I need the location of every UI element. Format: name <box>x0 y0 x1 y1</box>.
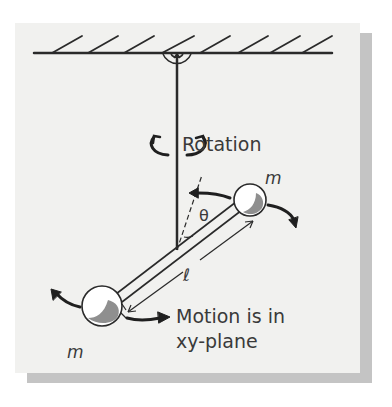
motion-label-line1: Motion is in <box>176 305 285 327</box>
length-label: ℓ <box>183 265 190 285</box>
rotation-label: Rotation <box>182 133 261 155</box>
ceiling <box>34 36 332 53</box>
mass-bottom-label: m <box>67 342 84 362</box>
mass-top-label: m <box>265 168 282 188</box>
rod <box>116 202 242 302</box>
mass-bottom <box>82 286 122 326</box>
mass-top <box>234 184 266 216</box>
motion-label-line2: xy-plane <box>176 330 258 352</box>
angle-label: θ <box>199 206 209 225</box>
